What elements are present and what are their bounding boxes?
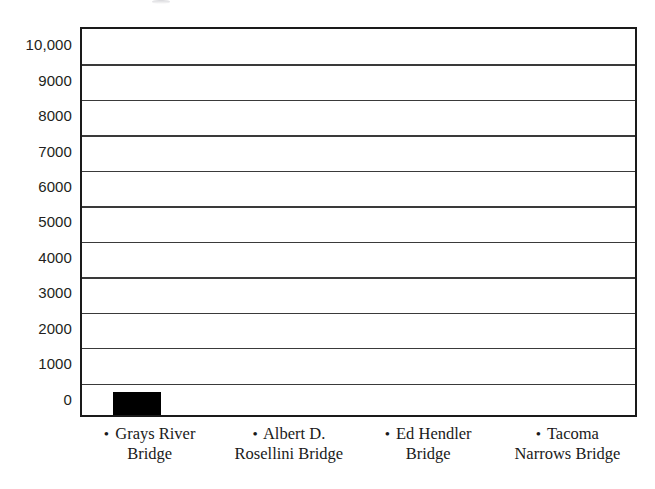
y-tick-label: 8000 [0,98,72,133]
y-tick-label: 9000 [0,62,72,97]
plot-area [80,27,637,417]
x-tick-label: • Albert D.Rosellini Bridge [219,424,358,484]
bar-chart: 10,0009000800070006000500040003000200010… [0,0,655,489]
y-tick-label: 5000 [0,204,72,239]
x-tick-label-line1: • Grays River [84,424,215,444]
bullet-icon: • [385,426,392,442]
x-tick-label: • Ed HendlerBridge [359,424,498,484]
x-tick-label-text: Grays River [111,424,195,443]
y-tick-label: 6000 [0,169,72,204]
x-tick-label-text: Ed Hendler [392,424,472,443]
y-tick-label: 7000 [0,133,72,168]
x-tick-label-line2: Bridge [84,444,215,463]
x-axis: • Grays RiverBridge• Albert D.Rosellini … [80,424,637,484]
y-tick-label: 3000 [0,275,72,310]
y-axis: 10,0009000800070006000500040003000200010… [0,27,72,417]
x-tick-label-text: Albert D. [260,424,326,443]
bullet-icon: • [252,426,259,442]
bars-layer [82,29,635,415]
y-tick-label: 1000 [0,346,72,381]
x-tick-label-text: Tacoma [543,424,599,443]
bullet-icon: • [536,426,543,442]
scan-artifact [152,0,170,4]
bullet-icon: • [104,426,111,442]
y-tick-label: 0 [0,382,72,417]
bar [113,392,161,415]
y-tick-label: 2000 [0,311,72,346]
x-tick-label-line1: • Ed Hendler [363,424,494,444]
x-tick-label-line2: Bridge [363,444,494,463]
x-tick-label: • Grays RiverBridge [80,424,219,484]
x-tick-label-line2: Narrows Bridge [502,444,633,463]
x-tick-label-line2: Rosellini Bridge [223,444,354,463]
y-tick-label: 10,000 [0,27,72,62]
x-tick-label: • TacomaNarrows Bridge [498,424,637,484]
y-tick-label: 4000 [0,240,72,275]
x-tick-label-line1: • Albert D. [223,424,354,444]
x-tick-label-line1: • Tacoma [502,424,633,444]
